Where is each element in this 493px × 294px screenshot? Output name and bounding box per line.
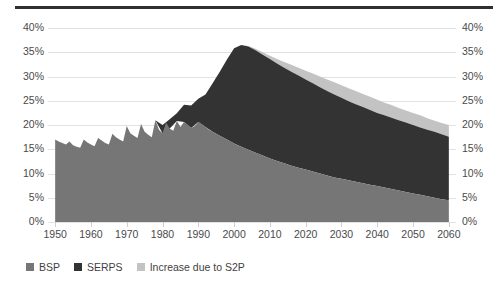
- y-tick-label-right: 15%: [462, 143, 493, 154]
- y-tick-label-right: 30%: [462, 71, 493, 82]
- y-tick-label-left: 40%: [8, 22, 44, 33]
- legend-swatch-serps: [74, 263, 82, 271]
- y-tick-label-right: 25%: [462, 95, 493, 106]
- x-tick-label: 2010: [250, 228, 290, 240]
- y-tick-label-right: 20%: [462, 119, 493, 130]
- legend-item-serps: SERPS: [74, 261, 123, 273]
- x-tick-label: 2030: [321, 228, 361, 240]
- y-tick-label-left: 20%: [8, 119, 44, 130]
- y-tick-label-left: 5%: [8, 192, 44, 203]
- x-tick-label: 2040: [357, 228, 397, 240]
- y-tick-label-right: 40%: [462, 22, 493, 33]
- x-tick-label: 1990: [178, 228, 218, 240]
- x-tick-mark: [413, 222, 414, 227]
- y-tick-label-right: 5%: [462, 192, 493, 203]
- x-tick-mark: [127, 222, 128, 227]
- legend-label-s2p: Increase due to S2P: [150, 261, 245, 273]
- x-tick-label: 2000: [214, 228, 254, 240]
- y-tick-label-left: 35%: [8, 46, 44, 57]
- y-tick-label-left: 0%: [8, 216, 44, 227]
- x-tick-mark: [377, 222, 378, 227]
- stacked-area-series: [48, 28, 456, 222]
- legend-swatch-s2p: [137, 263, 145, 271]
- chart-figure: 40%35%30%25%20%15%10%5%0% 40%35%30%25%20…: [0, 0, 493, 294]
- y-tick-label-left: 25%: [8, 95, 44, 106]
- y-tick-label-right: 35%: [462, 46, 493, 57]
- x-tick-mark: [341, 222, 342, 227]
- chart-legend: BSP SERPS Increase due to S2P: [26, 261, 259, 273]
- legend-item-s2p: Increase due to S2P: [137, 261, 245, 273]
- x-tick-label: 2050: [393, 228, 433, 240]
- x-tick-label: 1970: [107, 228, 147, 240]
- x-tick-mark: [449, 222, 450, 227]
- x-tick-mark: [270, 222, 271, 227]
- x-tick-label: 1950: [35, 228, 75, 240]
- x-tick-mark: [234, 222, 235, 227]
- legend-label-serps: SERPS: [87, 261, 123, 273]
- x-tick-mark: [163, 222, 164, 227]
- legend-label-bsp: BSP: [39, 261, 60, 273]
- y-tick-label-left: 10%: [8, 168, 44, 179]
- x-tick-mark: [306, 222, 307, 227]
- x-tick-label: 1980: [143, 228, 183, 240]
- x-tick-mark: [198, 222, 199, 227]
- x-tick-mark: [55, 222, 56, 227]
- y-tick-label-right: 10%: [462, 168, 493, 179]
- top-rule-divider: [15, 6, 493, 9]
- x-tick-label: 2020: [286, 228, 326, 240]
- x-tick-label: 2060: [429, 228, 469, 240]
- x-tick-mark: [91, 222, 92, 227]
- y-tick-label-left: 15%: [8, 143, 44, 154]
- legend-item-bsp: BSP: [26, 261, 60, 273]
- y-tick-label-left: 30%: [8, 71, 44, 82]
- legend-swatch-bsp: [26, 263, 34, 271]
- y-tick-label-right: 0%: [462, 216, 493, 227]
- x-tick-label: 1960: [71, 228, 111, 240]
- plot-area: [48, 28, 456, 222]
- gridline: [48, 222, 456, 223]
